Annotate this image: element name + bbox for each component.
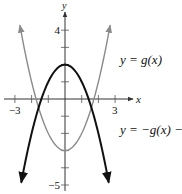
y-tick-label: 4 [55,24,61,36]
x-tick-label: −3 [9,104,21,116]
x-tick-label: 3 [112,104,118,116]
y-axis-label: y [61,0,67,11]
series-label-g: y = g(x) [118,52,162,67]
function-graph: x y −334−5 y = g(x) y = −g(x) − 1 [0,0,182,194]
y-tick-label: −5 [48,179,60,191]
series-label-neg-g-minus-1: y = −g(x) − 1 [118,122,182,137]
x-axis-label: x [135,93,141,105]
